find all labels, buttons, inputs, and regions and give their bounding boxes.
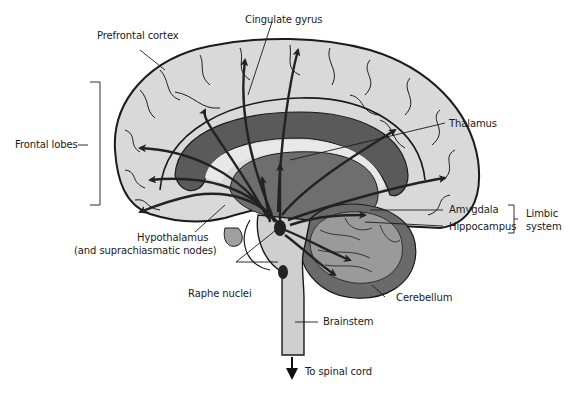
label-cingulate-gyrus: Cingulate gyrus — [245, 14, 322, 26]
label-brainstem: Brainstem — [323, 316, 373, 328]
down-arrow-icon — [286, 368, 298, 380]
brain-diagram: Cingulate gyrus Prefrontal cortex Fronta… — [0, 0, 570, 394]
label-hypothalamus: Hypothalamus — [137, 232, 208, 244]
raphe-nucleus-lower — [278, 265, 288, 279]
label-suprachiasmatic-nodes: (and suprachiasmatic nodes) — [74, 245, 217, 257]
label-to-spinal-cord: To spinal cord — [305, 366, 372, 378]
label-raphe-nuclei: Raphe nuclei — [188, 288, 252, 300]
label-thalamus: Thalamus — [449, 118, 497, 130]
label-hippocampus: Hippocampus — [449, 221, 516, 233]
label-amygdala: Amygdala — [449, 204, 498, 216]
label-frontal-lobes: Frontal lobes — [15, 139, 78, 151]
label-prefrontal-cortex: Prefrontal cortex — [97, 30, 179, 42]
brainstem — [257, 215, 310, 355]
pituitary — [224, 228, 242, 246]
label-cerebellum: Cerebellum — [396, 292, 452, 304]
label-limbic-line2: system — [526, 221, 562, 233]
label-limbic-line1: Limbic — [526, 208, 558, 220]
brain-illustration — [0, 0, 570, 394]
